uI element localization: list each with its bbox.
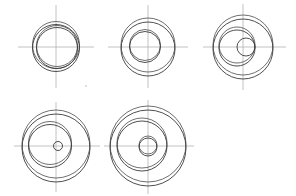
figure-2-inner-bore-upper <box>130 30 161 61</box>
eccentric-circles-canvas <box>0 0 296 196</box>
stray-speck <box>85 85 87 87</box>
figure-3 <box>203 4 286 90</box>
figure-1 <box>18 5 94 88</box>
figure-5-mid-ring-upper <box>117 118 167 168</box>
figure-1-inner-bore-lower <box>37 28 78 69</box>
figure-1-inner-bore-upper <box>37 26 78 67</box>
figure-sheet <box>0 0 296 196</box>
figure-4-mid-ring-upper <box>29 122 72 165</box>
figure-4 <box>14 102 100 192</box>
figure-2 <box>108 5 188 88</box>
figure-5 <box>104 100 194 194</box>
